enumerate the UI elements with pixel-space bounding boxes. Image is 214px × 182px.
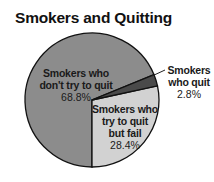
- label-quit: Smokers who quit 2.8%: [164, 64, 214, 100]
- label-try-to-quit-but-fail: Smokers who try to quit but fail 28.4%: [90, 103, 160, 151]
- label-dont-try-to-quit: Smokers who don't try to quit 68.8%: [28, 67, 124, 103]
